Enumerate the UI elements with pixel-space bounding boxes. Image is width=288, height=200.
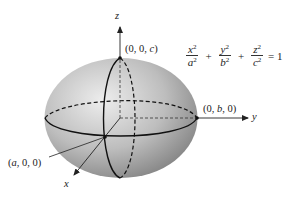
- plus-sign: +: [238, 50, 244, 62]
- point-front: [103, 135, 107, 139]
- exponent: 2: [226, 43, 230, 51]
- ellipsoid-equation: x2 a2 + y2 b2 + z2 c2 = 1: [184, 43, 282, 68]
- label-text: , 0): [222, 103, 236, 114]
- point-right: [195, 116, 199, 120]
- exponent: 2: [226, 56, 230, 64]
- denominator: b2: [220, 56, 229, 68]
- label-text: (0,: [203, 103, 217, 114]
- label-point-front: (a, 0, 0): [8, 157, 41, 168]
- plus-sign: +: [205, 50, 211, 62]
- numerator: y2: [219, 43, 231, 56]
- ellipsoid-diagram: [0, 0, 288, 200]
- term-z: z2 c2: [251, 43, 263, 68]
- denominator: a2: [188, 56, 197, 68]
- label-text: (0, 0,: [125, 43, 150, 54]
- label-text: ): [154, 43, 158, 54]
- z-axis-label: z: [115, 10, 119, 21]
- exponent: 2: [258, 56, 262, 64]
- denominator: c2: [253, 56, 261, 68]
- label-point-top: (0, 0, c): [125, 43, 158, 54]
- exponent: 2: [193, 43, 197, 51]
- term-x: x2 a2: [186, 43, 198, 68]
- exponent: 2: [258, 43, 262, 51]
- label-point-right: (0, b, 0): [203, 103, 236, 114]
- label-text: , 0, 0): [17, 157, 42, 168]
- equals-one: = 1: [268, 50, 282, 62]
- point-top: [118, 56, 122, 60]
- numerator: x2: [186, 43, 198, 56]
- exponent: 2: [193, 56, 197, 64]
- term-y: y2 b2: [219, 43, 231, 68]
- y-axis-label: y: [252, 111, 257, 122]
- numerator: z2: [251, 43, 263, 56]
- x-axis-label: x: [64, 178, 69, 189]
